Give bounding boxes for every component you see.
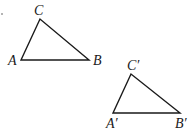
vertex-label-b: B [93, 53, 102, 68]
triangle-abc: C A B [7, 3, 102, 68]
stray-dot [1, 13, 3, 15]
vertex-label-c: C [34, 3, 44, 18]
vertex-label-a-prime: A′ [105, 116, 119, 131]
diagram-canvas: C A B C′ A′ B′ [0, 0, 189, 135]
vertex-label-c-prime: C′ [127, 58, 140, 73]
triangle-abc-shape [21, 19, 89, 60]
triangle-abc-prime: C′ A′ B′ [105, 58, 188, 131]
vertex-label-b-prime: B′ [175, 116, 188, 131]
vertex-label-a: A [7, 53, 17, 68]
triangle-abc-prime-shape [113, 74, 180, 113]
